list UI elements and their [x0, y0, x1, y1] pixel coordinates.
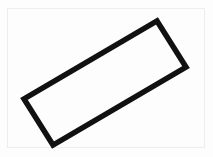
- image-canvas: [0, 0, 213, 157]
- shape-drawing-svg: [0, 0, 213, 157]
- rotated-rectangle-outline: [24, 21, 186, 145]
